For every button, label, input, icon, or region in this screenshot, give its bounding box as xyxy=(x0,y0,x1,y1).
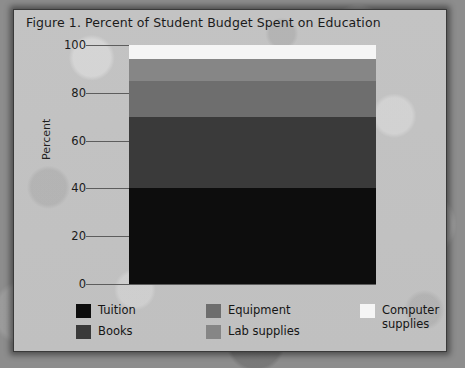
y-tick-label: 40 xyxy=(52,181,86,195)
bar-segment-lab-supplies[interactable] xyxy=(129,81,376,117)
gridline xyxy=(129,284,376,285)
y-tick-label: 100 xyxy=(52,38,86,52)
y-axis-tick xyxy=(86,141,129,142)
stacked-bar[interactable] xyxy=(129,45,376,284)
legend-entry[interactable]: Lab supplies xyxy=(206,324,300,342)
screenshot-canvas: Figure 1. Percent of Student Budget Spen… xyxy=(0,0,465,368)
legend-label: Lab supplies xyxy=(228,324,300,338)
plot-area xyxy=(129,45,376,284)
legend-label: Computer supplies xyxy=(382,303,439,331)
y-axis-tick xyxy=(86,284,129,285)
legend-label: Books xyxy=(98,324,133,338)
bar-segment-books[interactable] xyxy=(129,59,376,81)
chart-legend: TuitionBooksEquipmentLab suppliesCompute… xyxy=(76,303,426,345)
y-tick-label: 80 xyxy=(52,86,86,100)
bar-segment-equipment[interactable] xyxy=(129,117,376,189)
chart-title: Figure 1. Percent of Student Budget Spen… xyxy=(26,15,381,30)
legend-column: TuitionBooks xyxy=(76,303,136,345)
legend-swatch-icon xyxy=(206,304,221,318)
legend-column: EquipmentLab supplies xyxy=(206,303,300,345)
legend-entry[interactable]: Equipment xyxy=(206,303,300,321)
legend-label: Equipment xyxy=(228,303,290,317)
legend-entry[interactable]: Tuition xyxy=(76,303,136,321)
y-axis-tick xyxy=(86,45,129,46)
legend-swatch-icon xyxy=(76,304,91,318)
legend-swatch-icon xyxy=(76,325,91,339)
y-tick-label: 20 xyxy=(52,229,86,243)
legend-swatch-icon xyxy=(206,325,221,339)
y-tick-label: 60 xyxy=(52,134,86,148)
bar-segment-computer-supplies[interactable] xyxy=(129,45,376,59)
figure-panel: Figure 1. Percent of Student Budget Spen… xyxy=(13,9,447,352)
legend-entry[interactable]: Computer supplies xyxy=(360,303,439,321)
legend-column: Computer supplies xyxy=(360,303,439,324)
legend-label: Tuition xyxy=(98,303,136,317)
y-axis-tick xyxy=(86,236,129,237)
y-tick-label: 0 xyxy=(52,277,86,291)
bar-segment-tuition[interactable] xyxy=(129,188,376,284)
y-axis-tick xyxy=(86,188,129,189)
legend-entry[interactable]: Books xyxy=(76,324,136,342)
y-axis-tick xyxy=(86,93,129,94)
legend-swatch-icon xyxy=(360,304,375,318)
